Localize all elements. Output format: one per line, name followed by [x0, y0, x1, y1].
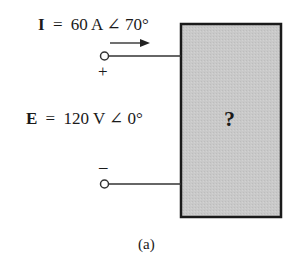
unknown-block-label: ? [224, 106, 235, 132]
circuit-wiring [0, 0, 297, 273]
top-terminal [101, 52, 109, 60]
voltage-equals: = [46, 109, 56, 128]
current-arrow-icon [110, 39, 150, 47]
voltage-value: 120 V ∠ 0° [63, 109, 142, 128]
bottom-terminal [101, 180, 109, 188]
minus-sign: – [99, 158, 108, 175]
current-equals: = [53, 15, 63, 34]
figure-caption: (a) [138, 236, 155, 253]
current-label: I = 60 A ∠ 70° [38, 16, 149, 33]
current-value: 60 A ∠ 70° [71, 15, 149, 34]
current-symbol: I [38, 15, 45, 34]
voltage-label: E = 120 V ∠ 0° [26, 110, 143, 127]
voltage-symbol: E [26, 109, 37, 128]
plus-sign: + [98, 63, 108, 80]
